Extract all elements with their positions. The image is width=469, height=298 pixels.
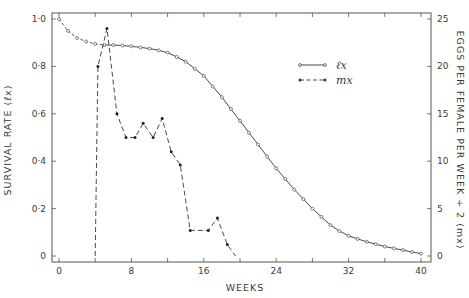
y2-tick-label: 15 — [437, 109, 448, 119]
y-tick-label: 0·4 — [32, 156, 47, 166]
lx-line — [104, 45, 421, 254]
y-tick-label: 1·0 — [32, 14, 47, 24]
mx-point — [179, 163, 182, 166]
lx-early-dashed-line — [59, 19, 104, 45]
lx-point — [67, 29, 70, 32]
mx-point — [142, 122, 145, 125]
lx-point — [175, 55, 178, 58]
lx-point — [76, 36, 79, 39]
plot-frame — [52, 13, 431, 262]
lx-point — [374, 243, 377, 246]
legend-lx-marker-icon — [324, 64, 327, 67]
lx-point — [356, 237, 359, 240]
y-tick-label: 0 — [40, 251, 46, 261]
mx-point — [207, 229, 210, 232]
lx-point — [148, 47, 151, 50]
y-tick-label: 0·2 — [32, 204, 46, 214]
mx-point — [170, 150, 173, 153]
life-table-chart: 0816243240 00·20·40·60·81·0 0510152025 ℓ… — [0, 0, 469, 298]
mx-point — [105, 27, 108, 30]
legend: ℓx mx — [299, 59, 354, 87]
x-tick-label: 0 — [56, 266, 62, 276]
lx-point — [239, 119, 242, 122]
plot-border — [52, 13, 431, 262]
lx-point — [58, 18, 61, 21]
y2-tick-label: 10 — [437, 156, 449, 166]
x-axis-title: WEEKS — [226, 282, 265, 293]
x-axis: 0816243240 — [56, 13, 427, 276]
lx-point — [166, 51, 169, 54]
legend-lx-label: ℓx — [336, 59, 348, 72]
lx-point — [266, 155, 269, 158]
mx-point — [161, 117, 164, 120]
lx-series — [58, 18, 423, 256]
y2-tick-label: 5 — [437, 204, 443, 214]
lx-point — [284, 177, 287, 180]
lx-point — [94, 42, 97, 45]
lx-point — [257, 143, 260, 146]
mx-point — [226, 243, 229, 246]
legend-mx-label: mx — [336, 74, 353, 87]
y-axis-right: 0510152025 — [427, 14, 449, 261]
lx-point — [130, 45, 133, 48]
lx-point — [229, 108, 232, 111]
lx-point — [248, 131, 251, 134]
lx-point — [121, 44, 124, 47]
lx-point — [383, 245, 386, 248]
lx-point — [193, 67, 196, 70]
y2-tick-label: 25 — [437, 14, 448, 24]
y-tick-label: 0·8 — [32, 61, 47, 71]
mx-line — [95, 29, 235, 257]
x-tick-label: 40 — [415, 266, 427, 276]
y-tick-label: 0·6 — [32, 109, 47, 119]
mx-point — [124, 136, 127, 139]
mx-point — [152, 136, 155, 139]
x-tick-label: 8 — [129, 266, 135, 276]
y2-axis-title: EGGS PER FEMALE PER WEEK ÷ 2 (mx) — [455, 31, 466, 250]
lx-point — [329, 224, 332, 227]
mx-point — [216, 217, 219, 220]
legend-mx-marker-icon — [299, 79, 302, 82]
lx-point — [275, 167, 278, 170]
lx-point — [220, 96, 223, 99]
lx-point — [320, 215, 323, 218]
lx-point — [401, 249, 404, 252]
legend-mx-marker-icon — [324, 79, 327, 82]
lx-point — [139, 46, 142, 49]
lx-point — [420, 252, 423, 255]
lx-point — [211, 85, 214, 88]
lx-point — [202, 74, 205, 77]
lx-point — [347, 234, 350, 237]
lx-point — [85, 40, 88, 43]
mx-point — [96, 65, 99, 68]
lx-point — [112, 44, 115, 47]
lx-point — [410, 250, 413, 253]
lx-point — [311, 207, 314, 210]
lx-point — [157, 49, 160, 52]
lx-point — [365, 240, 368, 243]
mx-point — [189, 229, 192, 232]
mx-point — [115, 112, 118, 115]
y-axis-title: SURVIVAL RATE (ℓx) — [2, 85, 13, 196]
mx-point — [134, 136, 137, 139]
lx-point — [184, 60, 187, 63]
lx-point — [338, 230, 341, 233]
mx-series — [95, 27, 235, 256]
lx-point — [392, 247, 395, 250]
x-tick-label: 32 — [343, 266, 354, 276]
y2-tick-label: 0 — [437, 251, 443, 261]
legend-lx-marker-icon — [299, 64, 302, 67]
x-tick-label: 16 — [198, 266, 210, 276]
lx-point — [293, 188, 296, 191]
lx-point — [302, 198, 305, 201]
x-tick-label: 24 — [270, 266, 282, 276]
y2-tick-label: 20 — [437, 61, 449, 71]
